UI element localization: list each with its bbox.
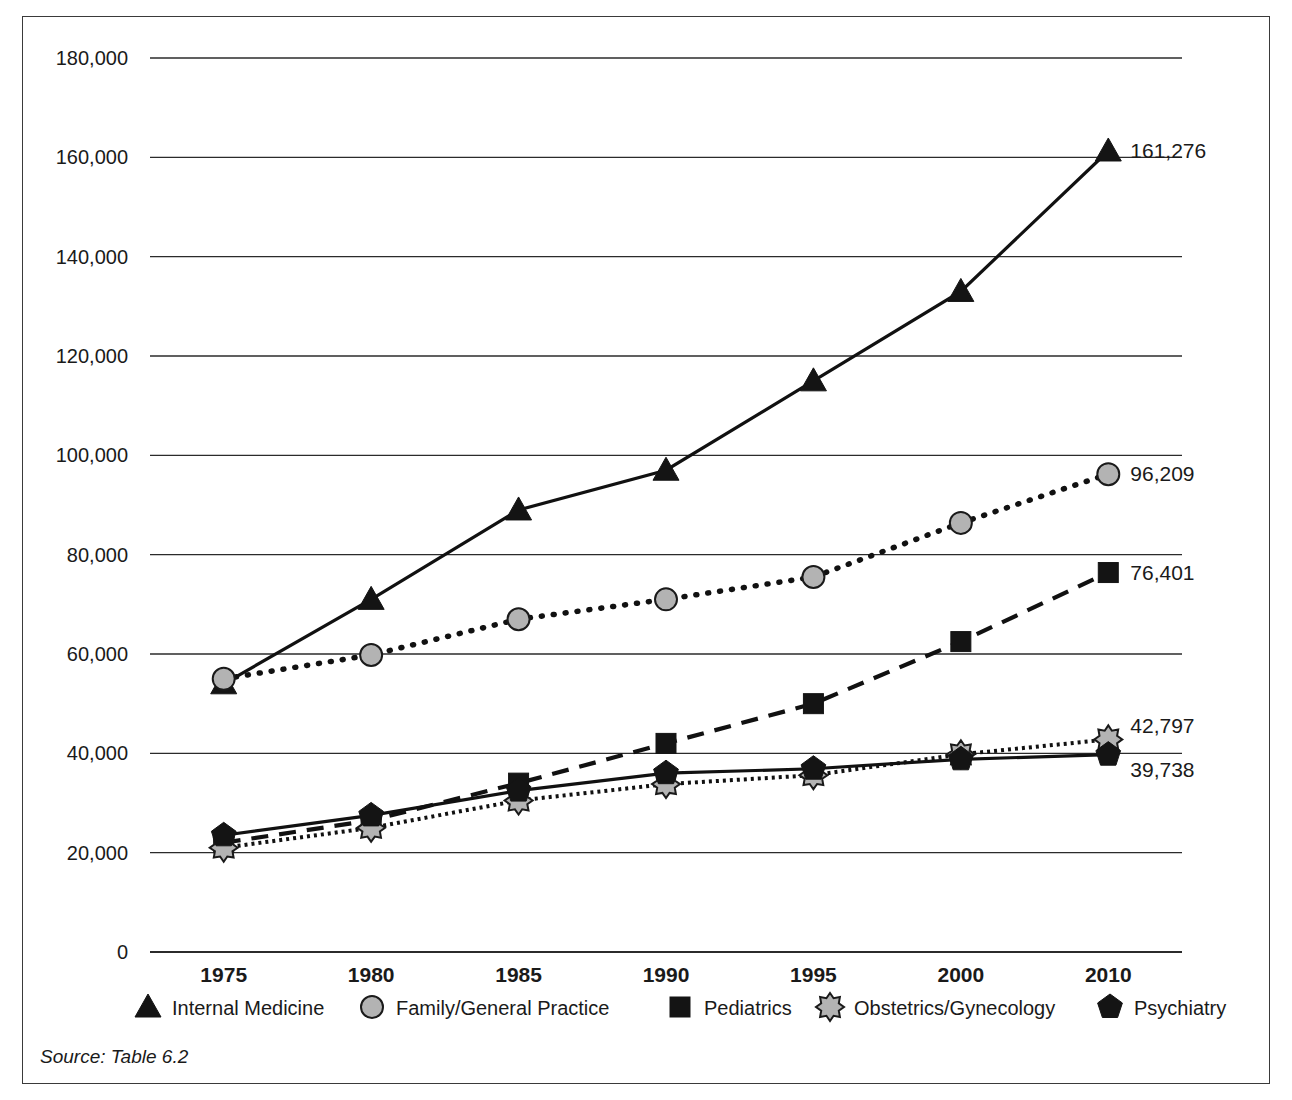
x-axis-tick-label: 2000 — [937, 963, 984, 986]
marker-circle — [802, 566, 824, 588]
marker-pentagon — [359, 802, 384, 826]
legend-marker-star — [816, 993, 844, 1021]
marker-circle — [360, 644, 382, 666]
legend-marker-circle — [361, 996, 383, 1018]
marker-square — [803, 694, 823, 714]
x-axis-tick-label: 1980 — [348, 963, 395, 986]
series-line-pediatrics — [224, 573, 1109, 843]
marker-pentagon — [801, 756, 826, 780]
legend: Internal MedicineFamily/General Practice… — [135, 993, 1226, 1021]
marker-square — [951, 632, 971, 652]
y-axis-tick-label: 80,000 — [67, 544, 128, 566]
marker-square — [1098, 563, 1118, 583]
x-axis-tick-label: 1990 — [643, 963, 690, 986]
y-axis-tick-label: 140,000 — [56, 246, 128, 268]
marker-triangle — [358, 586, 384, 609]
end-value-label: 39,738 — [1130, 758, 1194, 781]
legend-item-label: Family/General Practice — [396, 997, 609, 1019]
y-axis-tick-labels: 020,00040,00060,00080,000100,000120,0001… — [56, 47, 128, 963]
marker-pentagon — [211, 822, 236, 846]
end-value-label: 42,797 — [1130, 714, 1194, 737]
marker-pentagon — [654, 760, 679, 784]
marker-circle — [950, 512, 972, 534]
legend-item-label: Internal Medicine — [172, 997, 324, 1019]
x-axis-tick-labels: 1975198019851990199520002010 — [200, 963, 1131, 986]
y-axis-tick-label: 160,000 — [56, 146, 128, 168]
marker-triangle — [653, 457, 679, 480]
x-axis-tick-label: 2010 — [1085, 963, 1132, 986]
y-axis-tick-label: 120,000 — [56, 345, 128, 367]
line-chart: 020,00040,00060,00080,000100,000120,0001… — [0, 0, 1292, 1100]
y-axis-tick-label: 60,000 — [67, 643, 128, 665]
chart-svg: 020,00040,00060,00080,000100,000120,0001… — [0, 0, 1292, 1100]
end-value-label: 161,276 — [1130, 139, 1206, 162]
y-axis-tick-label: 0 — [117, 941, 128, 963]
marker-circle — [213, 668, 235, 690]
source-note: Source: Table 6.2 — [40, 1046, 188, 1068]
y-axis-tick-label: 100,000 — [56, 444, 128, 466]
legend-item-label: Pediatrics — [704, 997, 792, 1019]
x-axis-tick-label: 1985 — [495, 963, 542, 986]
legend-item-label: Psychiatry — [1134, 997, 1226, 1019]
marker-triangle — [800, 368, 826, 391]
marker-circle — [508, 608, 530, 630]
x-axis-tick-label: 1995 — [790, 963, 837, 986]
marker-circle — [655, 588, 677, 610]
end-value-label: 96,209 — [1130, 462, 1194, 485]
gridlines-group — [150, 58, 1182, 952]
end-value-labels-group: 161,27696,20976,40142,79739,738 — [1130, 139, 1206, 781]
end-value-label: 76,401 — [1130, 561, 1194, 584]
marker-circle — [1097, 463, 1119, 485]
legend-marker-triangle — [135, 994, 161, 1017]
legend-marker-pentagon — [1098, 994, 1123, 1018]
series-line-family-general-practice — [224, 474, 1109, 679]
marker-square — [656, 733, 676, 753]
marker-triangle — [1095, 138, 1121, 161]
y-axis-tick-label: 20,000 — [67, 842, 128, 864]
x-axis-tick-label: 1975 — [200, 963, 247, 986]
y-axis-tick-label: 40,000 — [67, 742, 128, 764]
legend-item-label: Obstetrics/Gynecology — [854, 997, 1055, 1019]
y-axis-tick-label: 180,000 — [56, 47, 128, 69]
legend-marker-square — [670, 997, 690, 1017]
